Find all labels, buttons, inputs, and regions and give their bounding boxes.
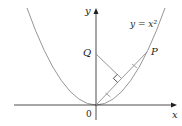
y-axis-label: y (84, 5, 91, 16)
diagram-canvas: y x 0 y = x² Q P (0, 0, 182, 126)
x-axis-label: x (172, 109, 178, 120)
x-axis-arrow-icon (171, 103, 177, 108)
curve-label: y = x² (129, 19, 157, 29)
point-q-label: Q (83, 47, 91, 58)
segment-q-midpoint (96, 54, 122, 79)
right-angle-marker (113, 74, 117, 82)
y-axis-arrow-icon (94, 8, 99, 14)
tick-mark (106, 93, 111, 97)
origin-label: 0 (86, 109, 92, 119)
point-p-label: P (150, 46, 158, 57)
